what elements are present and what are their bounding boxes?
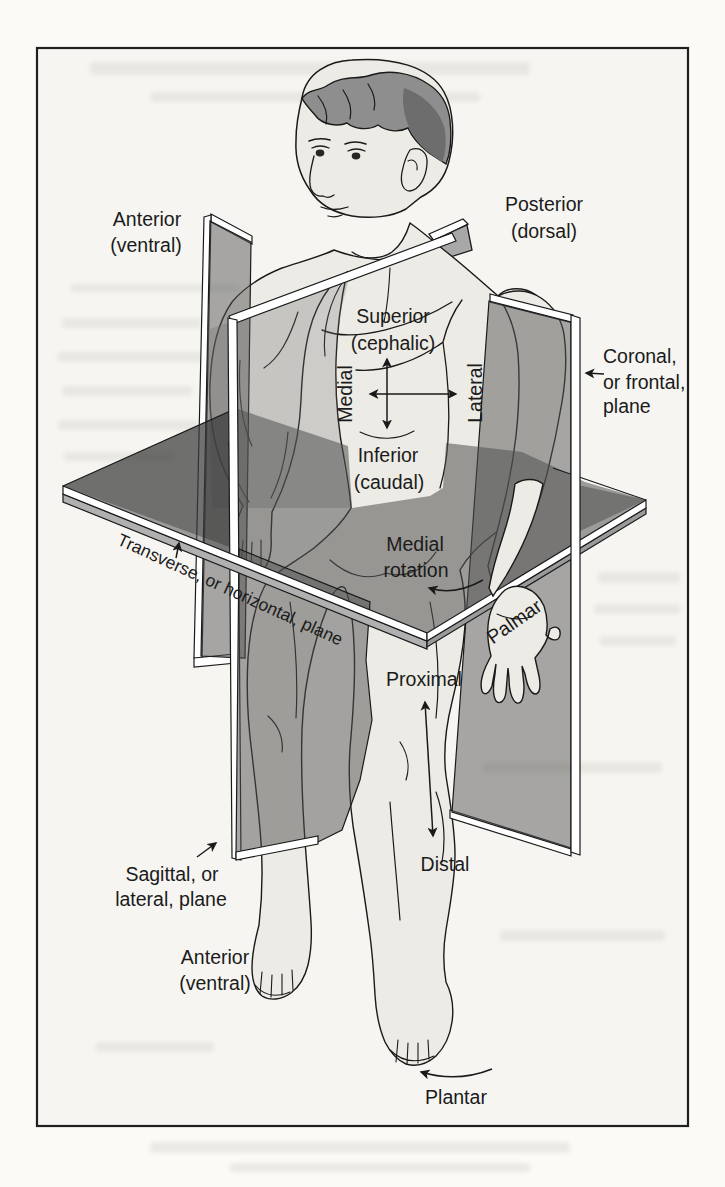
label-sagittal: Sagittal, or (125, 863, 219, 885)
label-superior: Superior (356, 305, 430, 327)
label-proximal: Proximal (386, 668, 462, 690)
label-plantar: Plantar (425, 1086, 487, 1108)
label-coronal-3: plane (603, 395, 651, 417)
label-posterior-sub: (dorsal) (511, 220, 577, 242)
label-coronal-1: Coronal, (603, 345, 677, 367)
label-anterior-bottom-sub: (ventral) (179, 972, 251, 994)
label-superior-sub: (cephalic) (351, 332, 436, 354)
label-inferior-sub: (caudal) (354, 471, 424, 493)
label-inferior: Inferior (358, 444, 419, 466)
label-anterior-bottom: Anterior (181, 946, 250, 968)
coronal-plane-right-edge (571, 315, 580, 855)
label-lateral: Lateral (464, 363, 486, 423)
anatomical-planes-diagram: Anterior (ventral) Posterior (dorsal) Su… (0, 0, 725, 1187)
label-sagittal-sub: lateral, plane (115, 888, 227, 910)
label-medial-rotation-sub: rotation (383, 559, 448, 581)
scanned-textbook-page: Anterior (ventral) Posterior (dorsal) Su… (0, 0, 725, 1187)
label-anterior-top-sub: (ventral) (110, 234, 182, 256)
label-anterior-top: Anterior (113, 208, 182, 230)
label-medial-rotation: Medial (386, 533, 443, 555)
label-coronal-2: or frontal, (603, 371, 685, 393)
label-posterior: Posterior (505, 193, 584, 215)
label-medial: Medial (334, 365, 356, 422)
label-distal: Distal (421, 853, 470, 875)
coronal-plane-pointer-arrow (586, 373, 604, 374)
